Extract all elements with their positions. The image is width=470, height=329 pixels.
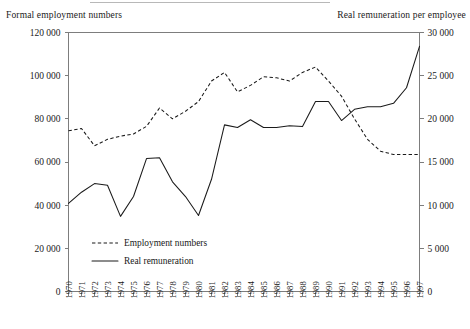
right-tick-label: 25 000 [428, 71, 454, 81]
x-tick-label: 1991 [337, 281, 347, 298]
left-tick-label: 100 000 [30, 71, 61, 81]
x-tick-label: 1984 [246, 281, 256, 299]
left-tick-label: 60 000 [34, 157, 60, 167]
x-tick-label: 1980 [194, 281, 204, 298]
left-tick-label: 80 000 [34, 114, 60, 124]
x-tick-label: 1985 [259, 281, 269, 298]
x-tick-label: 1974 [116, 281, 126, 299]
legend-label-1: Real remuneration [124, 256, 194, 266]
x-tick-label: 1997 [415, 281, 425, 299]
x-tick-label: 1994 [376, 281, 386, 299]
x-tick-label: 1983 [233, 281, 243, 298]
x-tick-label: 1973 [103, 281, 113, 298]
left-tick-label: 120 000 [30, 28, 61, 38]
left-tick-label: 20 000 [34, 244, 60, 254]
chart-legend: Employment numbersReal remuneration [92, 238, 207, 266]
x-tick-label: 1978 [168, 281, 178, 298]
x-tick-label: 1990 [324, 281, 334, 298]
series-line-employment-numbers [69, 67, 420, 154]
right-tick-label: 10 000 [428, 201, 454, 211]
plot-frame [69, 33, 420, 292]
right-tick-label: 20 000 [428, 114, 454, 124]
x-tick-label: 1975 [129, 281, 139, 298]
data-series-group [69, 46, 420, 216]
x-tick-label: 1986 [272, 281, 282, 299]
series-line-real-remuneration [69, 46, 420, 216]
left-axis-title: Formal employment numbers [6, 10, 122, 20]
right-tick-label: 0 [428, 287, 433, 297]
x-tick-label: 1996 [402, 281, 412, 299]
right-tick-label: 5 000 [428, 244, 450, 254]
right-tick-label: 30 000 [428, 28, 454, 38]
line-chart-plot: 020 00040 00060 00080 000100 000120 000 … [0, 0, 470, 329]
right-axis-title: Real remuneration per employee [337, 10, 466, 20]
right-tick-label: 15 000 [428, 157, 454, 167]
x-tick-label: 1977 [155, 281, 165, 299]
x-tick-label: 1981 [207, 281, 217, 298]
x-tick-label: 1972 [90, 281, 100, 298]
x-tick-label: 1970 [64, 281, 74, 298]
x-tick-label: 1979 [181, 281, 191, 298]
x-tick-label: 1989 [311, 281, 321, 298]
x-tick-label: 1995 [389, 281, 399, 298]
x-tick-label: 1971 [77, 281, 87, 298]
x-tick-label: 1993 [363, 281, 373, 298]
left-tick-label: 0 [56, 287, 61, 297]
left-tick-label: 40 000 [34, 201, 60, 211]
x-tick-label: 1982 [220, 281, 230, 298]
x-axis-ticks: 1970197119721973197419751976197719781979… [64, 281, 425, 299]
right-axis-ticks: 05 00010 00015 00020 00025 00030 000 [420, 28, 454, 297]
x-tick-label: 1988 [298, 281, 308, 298]
legend-label-0: Employment numbers [124, 238, 207, 248]
chart-figure: Formal employment numbers Real remunerat… [0, 0, 470, 329]
x-tick-label: 1976 [142, 281, 152, 299]
x-tick-label: 1992 [350, 281, 360, 298]
x-tick-label: 1987 [285, 281, 295, 299]
left-axis-ticks: 020 00040 00060 00080 000100 000120 000 [30, 28, 69, 297]
